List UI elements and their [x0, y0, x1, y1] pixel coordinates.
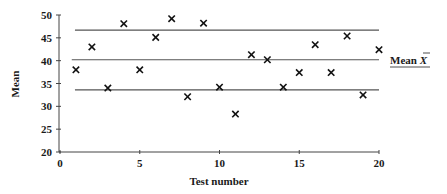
y-tick-label: 20 — [41, 146, 53, 158]
data-point — [89, 44, 95, 50]
y-tick-label: 45 — [41, 32, 53, 44]
data-point — [137, 67, 143, 73]
data-point — [168, 15, 174, 21]
data-point — [296, 69, 302, 75]
x-tick-label: 0 — [57, 157, 63, 169]
mean-annotation: Mean X — [390, 53, 430, 67]
data-point — [344, 33, 350, 39]
data-point — [232, 111, 238, 117]
data-points — [73, 15, 382, 117]
y-tick-label: 25 — [41, 123, 53, 135]
y-tick-label: 40 — [41, 55, 53, 67]
data-point — [73, 67, 79, 73]
data-point — [376, 47, 382, 53]
x-tick-label: 10 — [214, 157, 226, 169]
control-chart: 2025303540455005101520 Test number Mean … — [0, 0, 447, 194]
data-point — [248, 52, 254, 58]
y-axis-title: Mean — [9, 71, 21, 98]
data-point — [200, 20, 206, 26]
chart-canvas: 2025303540455005101520 Test number Mean … — [0, 0, 447, 194]
x-tick-label: 20 — [374, 157, 386, 169]
x-tick-label: 5 — [137, 157, 143, 169]
x-axis-title: Test number — [189, 175, 248, 187]
mean-label: Mean X — [390, 54, 428, 66]
reference-lines — [72, 30, 379, 90]
data-point — [121, 20, 127, 26]
data-point — [360, 92, 366, 98]
y-tick-label: 35 — [41, 78, 53, 90]
data-point — [312, 41, 318, 47]
x-tick-label: 15 — [294, 157, 306, 169]
data-point — [153, 34, 159, 40]
data-point — [184, 94, 190, 100]
data-point — [328, 69, 334, 75]
y-tick-label: 30 — [41, 100, 53, 112]
axes: 2025303540455005101520 — [41, 9, 385, 169]
y-tick-label: 50 — [41, 9, 53, 21]
